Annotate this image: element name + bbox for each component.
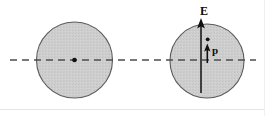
center-dot-icon <box>72 58 77 63</box>
point-dot-icon <box>206 37 210 41</box>
diagram-canvas <box>0 0 265 116</box>
physics-diagram-figure: E p <box>0 0 265 116</box>
dipole-moment-label: p <box>212 45 218 56</box>
electric-field-label: E <box>200 5 208 17</box>
